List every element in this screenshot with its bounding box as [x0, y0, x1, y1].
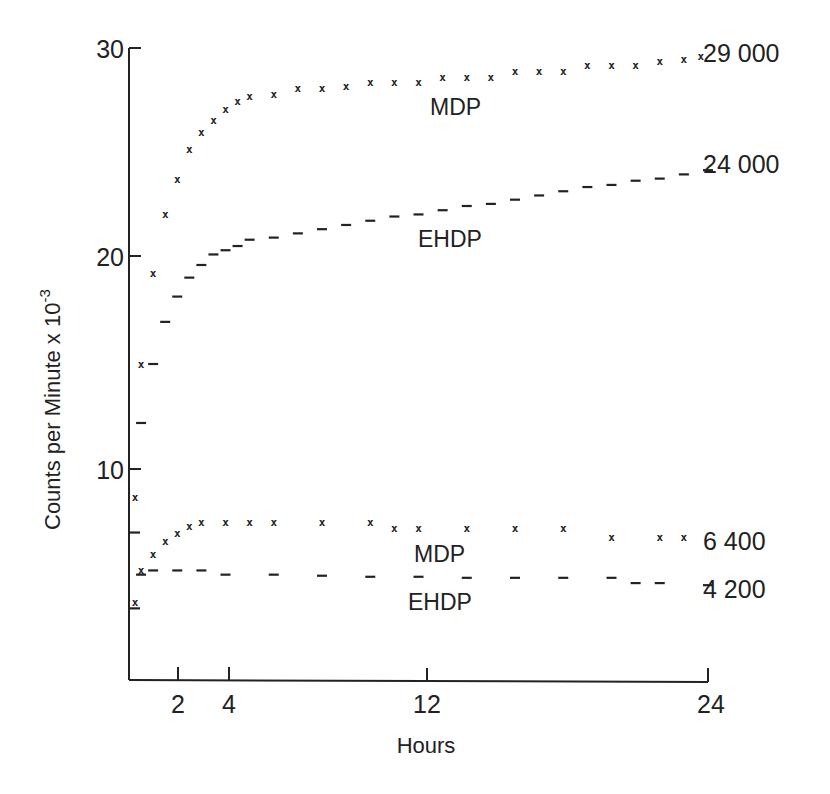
x-tick-label-4: 4: [222, 690, 236, 718]
data-point-x-marker: x: [415, 522, 422, 535]
data-point-x-marker: x: [132, 596, 139, 609]
end-label-24000: 24 000: [703, 150, 779, 178]
data-point-x-marker: x: [198, 126, 205, 139]
data-point-x-marker: x: [656, 531, 663, 544]
axes: [129, 48, 708, 682]
y-axis-title: Counts per Minute x 10-3: [36, 289, 65, 530]
data-point-x-marker: x: [174, 173, 181, 186]
y-axis-title-main: Counts per Minute x 10: [40, 303, 65, 530]
end-label-6400: 6 400: [703, 527, 766, 555]
data-point-x-marker: x: [150, 548, 157, 561]
data-point-x-marker: x: [367, 76, 374, 89]
data-point-x-marker: x: [391, 76, 398, 89]
x-tick-label-2: 2: [171, 690, 185, 718]
data-point-x-marker: x: [319, 82, 326, 95]
data-point-x-marker: x: [560, 65, 567, 78]
data-point-x-marker: x: [222, 103, 229, 116]
data-point-x-marker: x: [132, 491, 139, 504]
end-label-29000: 29 000: [703, 39, 779, 67]
data-point-x-marker: x: [608, 59, 615, 72]
y-tick-label-30: 30: [96, 35, 124, 63]
x-axis-line: [129, 680, 708, 682]
label-mdp-upper: MDP: [430, 94, 481, 120]
y-tick-label-20: 20: [96, 243, 124, 271]
data-point-x-marker: x: [162, 535, 169, 548]
label-mdp-lower: MDP: [414, 541, 465, 567]
data-point-x-marker: x: [681, 531, 688, 544]
data-point-x-marker: x: [246, 516, 253, 529]
data-point-x-marker: x: [295, 82, 302, 95]
x-tick-label-24: 24: [697, 690, 725, 718]
data-point-x-marker: x: [198, 516, 205, 529]
y-axis-title-exponent: -3: [36, 289, 53, 302]
series-ehdp-upper: [130, 170, 713, 532]
data-point-x-marker: x: [150, 267, 157, 280]
data-point-x-marker: x: [656, 55, 663, 68]
data-point-x-marker: x: [174, 527, 181, 540]
data-point-x-marker: x: [463, 71, 470, 84]
y-tick-label-10: 10: [96, 456, 124, 484]
data-point-x-marker: x: [246, 90, 253, 103]
label-ehdp-upper: EHDP: [418, 226, 482, 252]
data-point-x-marker: x: [512, 65, 519, 78]
data-point-x-marker: x: [608, 531, 615, 544]
data-point-x-marker: x: [270, 516, 277, 529]
data-point-x-marker: x: [270, 88, 277, 101]
data-point-x-marker: x: [681, 53, 688, 66]
x-tick-label-12: 12: [413, 690, 441, 718]
data-point-x-marker: x: [210, 114, 217, 127]
data-point-x-marker: x: [162, 208, 169, 221]
data-point-x-marker: x: [367, 516, 374, 529]
data-point-x-marker: x: [138, 358, 145, 371]
data-point-x-marker: x: [391, 522, 398, 535]
data-point-x-marker: x: [632, 59, 639, 72]
svg-text:Counts per Minute x 10-3: Counts per Minute x 10-3: [36, 289, 65, 530]
data-point-x-marker: x: [234, 95, 241, 108]
data-point-x-marker: x: [186, 520, 193, 533]
x-axis-title: Hours: [397, 733, 456, 758]
end-label-4200: 4 200: [703, 575, 766, 603]
data-point-x-marker: x: [186, 143, 193, 156]
series-mdp-upper: xxxxxxxxxxxxxxxxxxxxxxxxxxxxxx: [132, 50, 705, 503]
data-point-x-marker: x: [343, 80, 350, 93]
data-point-x-marker: x: [512, 522, 519, 535]
data-point-x-marker: x: [560, 522, 567, 535]
data-point-x-marker: x: [536, 65, 543, 78]
label-ehdp-lower: EHDP: [408, 589, 472, 615]
data-point-x-marker: x: [415, 76, 422, 89]
data-point-x-marker: x: [222, 516, 229, 529]
chart: 30 20 10 2 4 12 24 Hours Counts per Minu…: [0, 0, 830, 794]
data-point-x-marker: x: [584, 59, 591, 72]
data-point-x-marker: x: [319, 516, 326, 529]
data-point-x-marker: x: [463, 522, 470, 535]
data-point-x-marker: x: [439, 71, 446, 84]
data-point-x-marker: x: [488, 71, 495, 84]
